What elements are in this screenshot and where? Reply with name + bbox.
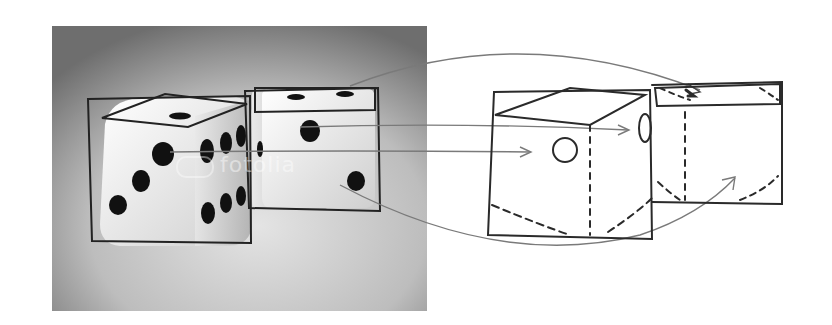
back-die — [252, 86, 375, 210]
front-cube-sketch — [488, 88, 652, 239]
watermark-text: fotolia — [220, 152, 296, 177]
hand-sketch — [488, 82, 782, 239]
dice-sketch-figure: fotolia Photo of two dice with sketch ov… — [0, 0, 832, 325]
watermark-logo-icon — [176, 156, 214, 178]
figure-canvas — [0, 0, 832, 325]
back-cube-sketch — [652, 82, 782, 204]
